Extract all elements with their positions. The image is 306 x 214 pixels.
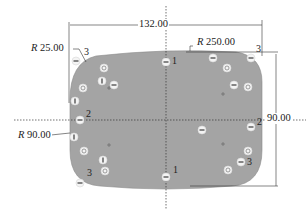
horizontal-constraint-icon[interactable] (230, 81, 238, 89)
horizontal-constraint-icon[interactable] (247, 54, 255, 62)
sketch-canvas (0, 0, 306, 214)
point-label-bottom-right: 3 (247, 157, 252, 167)
concentric-constraint-icon[interactable] (100, 64, 108, 72)
top-edge-radius-dimension[interactable]: R 250.00 (196, 37, 236, 48)
point-label-top-right: 3 (256, 44, 261, 54)
concentric-constraint-icon[interactable] (244, 147, 252, 155)
horizontal-constraint-icon[interactable] (110, 81, 118, 89)
horizontal-constraint-icon[interactable] (76, 179, 84, 187)
concentric-constraint-icon[interactable] (224, 166, 232, 174)
radius-prefix: R (18, 129, 24, 140)
horizontal-constraint-icon[interactable] (72, 57, 80, 65)
height-dimension[interactable]: 90.00 (266, 113, 292, 124)
point-label-bottom-center: 1 (173, 165, 178, 175)
horizontal-constraint-icon[interactable] (198, 126, 206, 134)
vertical-constraint-icon[interactable] (98, 77, 106, 85)
concentric-constraint-icon[interactable] (223, 64, 231, 72)
r250-leader (190, 46, 193, 51)
top-edge-radius-value: 250.00 (206, 36, 235, 47)
horizontal-constraint-icon[interactable] (237, 158, 245, 166)
point-label-top-left: 3 (84, 47, 89, 57)
point-label-top-center: 1 (172, 56, 177, 66)
r90-leader (51, 133, 70, 135)
point-label-left-mid: 2 (86, 109, 91, 119)
side-edge-radius-value: 90.00 (27, 129, 51, 140)
horizontal-constraint-icon[interactable] (247, 123, 255, 131)
height-dimension-value: 90.00 (267, 112, 291, 123)
vertical-constraint-icon[interactable] (71, 97, 79, 105)
concentric-constraint-icon[interactable] (244, 83, 252, 91)
point-label-right-mid: 2 (257, 117, 262, 127)
corner-radius-value: 25.00 (40, 42, 64, 53)
side-edge-radius-dimension[interactable]: R 90.00 (17, 130, 52, 141)
corner-radius-dimension[interactable]: R 25.00 (30, 43, 65, 54)
horizontal-constraint-icon[interactable] (162, 173, 170, 181)
concentric-constraint-icon[interactable] (101, 167, 109, 175)
horizontal-constraint-icon[interactable] (162, 58, 170, 66)
horizontal-constraint-icon[interactable] (209, 54, 217, 62)
concentric-constraint-icon[interactable] (80, 147, 88, 155)
vertical-constraint-icon[interactable] (99, 156, 107, 164)
vertical-constraint-icon[interactable] (70, 133, 78, 141)
horizontal-constraint-icon[interactable] (76, 116, 84, 124)
radius-prefix: R (197, 36, 203, 47)
width-dimension[interactable]: 132.00 (138, 19, 169, 30)
radius-prefix: R (31, 42, 37, 53)
point-label-bottom-left: 3 (87, 168, 92, 178)
concentric-constraint-icon[interactable] (79, 84, 87, 92)
width-dimension-value: 132.00 (139, 18, 168, 29)
